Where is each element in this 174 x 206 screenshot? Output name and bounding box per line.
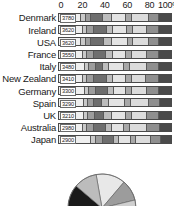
bar-segment xyxy=(147,112,158,119)
category-label: USA xyxy=(0,37,56,48)
bar-segment xyxy=(87,75,94,82)
category-label: Denmark xyxy=(0,12,56,23)
bar-segment xyxy=(96,87,108,94)
chart-row: New Zealand3410 xyxy=(0,73,174,85)
bar-segment xyxy=(146,75,158,82)
bar-segment xyxy=(112,38,129,45)
bar-segment xyxy=(114,87,126,94)
chart-row: Japan2900 xyxy=(0,134,174,146)
bar-segment xyxy=(113,75,126,82)
bar-segment xyxy=(159,87,171,94)
bar-segment xyxy=(94,26,107,33)
x-axis-tick: 100% xyxy=(158,0,174,11)
bar-segment xyxy=(113,51,126,58)
bar-segment xyxy=(151,136,161,143)
bar-segment xyxy=(96,136,103,143)
bar-segment xyxy=(131,99,149,106)
bar-segment xyxy=(132,14,149,21)
category-label: Spain xyxy=(0,98,56,109)
x-axis: 020406080100% xyxy=(58,0,174,12)
bar-segment xyxy=(133,26,148,33)
bar-segment xyxy=(161,136,171,143)
bar-segment xyxy=(87,26,94,33)
data-label: 3550 xyxy=(60,51,76,59)
bar-segment xyxy=(147,26,158,33)
bar-segment xyxy=(87,51,94,58)
category-label: UK xyxy=(0,110,56,121)
bar-segment xyxy=(103,136,114,143)
chart-row: Spain3290 xyxy=(0,97,174,109)
bar-segment xyxy=(112,124,124,131)
category-label: Australia xyxy=(0,122,56,133)
stacked-bar-chart: 020406080100% Denmark3780Ireland3620USA3… xyxy=(0,0,174,206)
data-label: 3480 xyxy=(60,63,76,71)
bar-segment xyxy=(159,26,171,33)
bar-segment xyxy=(112,14,127,21)
bar-segment xyxy=(112,112,127,119)
bar-segment xyxy=(147,63,158,70)
bar-segment xyxy=(109,99,125,106)
category-label: Ireland xyxy=(0,25,56,36)
bar-segment xyxy=(102,99,110,106)
bar-segment xyxy=(159,63,171,70)
data-label: 2980 xyxy=(60,124,76,132)
bar-segment xyxy=(133,38,149,45)
chart-row: France3550 xyxy=(0,49,174,61)
bar-segment xyxy=(147,87,158,94)
bar-segment xyxy=(88,112,95,119)
bar-segment xyxy=(94,51,106,58)
bar-segment xyxy=(91,38,103,45)
chart-row: UK3210 xyxy=(0,110,174,122)
bar-segment xyxy=(94,124,106,131)
pie-chart-svg xyxy=(56,166,148,206)
bar-segment xyxy=(160,99,171,106)
bar-segment xyxy=(159,75,171,82)
bar-segment xyxy=(104,112,112,119)
x-axis-tick: 0 xyxy=(59,0,64,11)
bar-segment xyxy=(147,51,158,58)
bar-segment xyxy=(91,14,102,21)
bar-segment xyxy=(89,63,96,70)
category-label: Germany xyxy=(0,86,56,97)
bar-segment xyxy=(132,51,148,58)
bar-segment xyxy=(130,124,148,131)
data-label: 2900 xyxy=(60,136,76,144)
category-label: Japan xyxy=(0,134,56,145)
bar-segment xyxy=(103,63,110,70)
data-label: 3780 xyxy=(60,14,76,22)
data-label: 3210 xyxy=(60,112,76,120)
bar-segment xyxy=(95,112,104,119)
category-label: Italy xyxy=(0,61,56,72)
bar-segment xyxy=(87,124,94,131)
bar-segment xyxy=(132,87,148,94)
data-label: 3300 xyxy=(60,87,76,95)
bar-segment xyxy=(94,99,102,106)
bar-segment xyxy=(104,38,112,45)
data-label: 3290 xyxy=(60,100,76,108)
chart-row: Denmark3780 xyxy=(0,12,174,24)
bar-segment xyxy=(136,136,151,143)
chart-row: USA3620 xyxy=(0,36,174,48)
bar-segment xyxy=(147,124,159,131)
bar-segment xyxy=(132,112,148,119)
bar-segment xyxy=(159,38,171,45)
bar-segment xyxy=(159,112,171,119)
bar-segment xyxy=(160,124,171,131)
bar-segment xyxy=(130,63,148,70)
category-label: New Zealand xyxy=(0,73,56,84)
bar-segment xyxy=(149,38,159,45)
x-axis-tick: 40 xyxy=(100,0,110,11)
bar-segment xyxy=(132,75,147,82)
data-label: 3410 xyxy=(60,75,76,83)
x-axis-tick: 80 xyxy=(145,0,155,11)
bar-segment xyxy=(89,87,96,94)
bar-segment xyxy=(113,26,128,33)
data-label: 3620 xyxy=(60,39,76,47)
bar-segment xyxy=(159,51,171,58)
chart-row: Germany3300 xyxy=(0,85,174,97)
x-axis-tick: 20 xyxy=(78,0,88,11)
x-axis-tick: 60 xyxy=(122,0,132,11)
chart-row: Australia2980 xyxy=(0,122,174,134)
bar-segment xyxy=(119,136,130,143)
bar-segment xyxy=(96,63,103,70)
